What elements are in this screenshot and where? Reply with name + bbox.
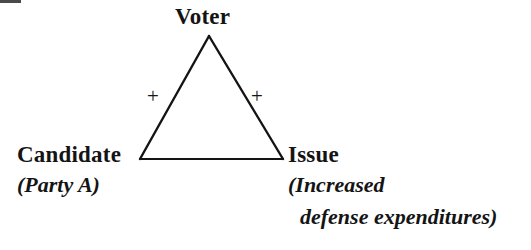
edge-sign-plus-left: + bbox=[147, 86, 159, 107]
node-label-candidate: Candidate bbox=[17, 143, 121, 166]
node-label-issue: Issue bbox=[288, 143, 339, 166]
edge-sign-plus-right: + bbox=[251, 86, 263, 107]
diagram-canvas: Voter Candidate (Party A) Issue (Increas… bbox=[0, 0, 531, 250]
edge-voter-issue bbox=[209, 36, 283, 159]
node-sublabel-candidate-party: (Party A) bbox=[17, 174, 100, 196]
node-label-voter: Voter bbox=[175, 5, 230, 28]
node-sublabel-issue-line2: defense expenditures) bbox=[300, 206, 497, 228]
node-sublabel-issue-line1: (Increased bbox=[288, 174, 385, 196]
